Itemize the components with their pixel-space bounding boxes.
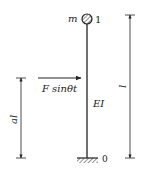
ground-hatch [77,158,98,163]
bottom-node-label: 0 [102,154,108,164]
force-label: F sinθt [41,83,78,94]
mass-circle [82,14,92,24]
cantilever-diagram: m 1 0 EI F sinθt l al [0,0,150,177]
mass-label: m [68,13,77,24]
stiffness-label: EI [92,98,105,109]
length-label: l [117,85,128,88]
top-node-label: 1 [95,14,101,25]
force-height-label: al [8,115,19,124]
